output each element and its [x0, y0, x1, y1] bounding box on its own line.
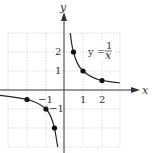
- x-tick-1: 1: [80, 94, 86, 105]
- y-tick-neg1: −1: [49, 103, 64, 114]
- y-tick-1: 1: [55, 65, 61, 76]
- equation-label: y = 1 x: [87, 40, 115, 62]
- x-tick-2: 2: [99, 94, 105, 105]
- y-tick-2: 2: [55, 46, 61, 57]
- svg-text:x: x: [105, 49, 112, 62]
- svg-text:y =: y =: [87, 46, 105, 57]
- axes: [0, 16, 136, 153]
- y-axis-label: y: [59, 1, 67, 14]
- reciprocal-function-chart: x y −1 1 2 2 1 −1 y = 1 x: [0, 0, 152, 153]
- x-axis-arrow-icon: [131, 87, 140, 93]
- x-axis-label: x: [142, 84, 149, 97]
